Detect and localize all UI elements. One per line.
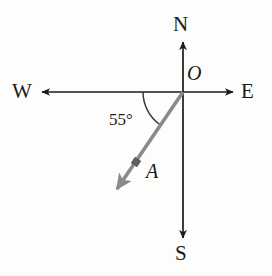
angle-arc [143, 92, 160, 125]
label-east: E [241, 81, 254, 102]
label-west: W [12, 81, 32, 102]
compass-bearing-figure: N S W E O A 55° [0, 0, 272, 276]
compass-diagram-svg [0, 0, 272, 276]
label-point-a: A [146, 161, 158, 181]
label-south: S [175, 243, 187, 264]
label-angle-measure: 55° [109, 111, 133, 128]
label-origin-o: O [187, 63, 201, 83]
label-north: N [173, 14, 188, 35]
